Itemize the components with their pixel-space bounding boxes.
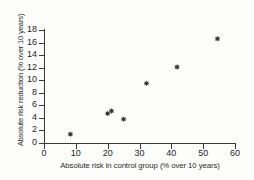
plot-area xyxy=(44,30,235,143)
data-point xyxy=(121,116,127,122)
data-point xyxy=(67,131,73,137)
data-point xyxy=(108,108,114,114)
y-tick-label: 2 xyxy=(18,124,37,134)
x-tick-label: 20 xyxy=(98,148,118,158)
scatter-plot-figure: Absolute risk reduction (% over 10 years… xyxy=(0,0,254,180)
y-tick-label: 14 xyxy=(18,49,37,59)
x-tick-label: 60 xyxy=(225,148,245,158)
data-point xyxy=(174,64,180,70)
y-tick-label: 18 xyxy=(18,24,37,34)
x-axis-title: Absolute risk in control group (% over 1… xyxy=(44,161,236,170)
data-point-marker-icon xyxy=(144,80,150,86)
data-point xyxy=(144,80,150,86)
y-tick-label: 10 xyxy=(18,74,37,84)
data-point-marker-icon xyxy=(108,108,114,114)
data-point-marker-icon xyxy=(174,64,180,70)
y-tick-label: 4 xyxy=(18,112,37,122)
y-tick-label: 0 xyxy=(18,137,37,147)
y-tick-label: 16 xyxy=(18,37,37,47)
x-tick-label: 40 xyxy=(161,148,181,158)
x-tick-label: 30 xyxy=(130,148,150,158)
y-tick-label: 8 xyxy=(18,87,37,97)
x-tick-label: 50 xyxy=(193,148,213,158)
data-point xyxy=(214,36,220,42)
y-tick-label: 6 xyxy=(18,99,37,109)
data-point-marker-icon xyxy=(214,36,220,42)
data-point-marker-icon xyxy=(67,131,73,137)
x-tick-label: 0 xyxy=(34,148,54,158)
data-point-marker-icon xyxy=(121,116,127,122)
y-tick-label: 12 xyxy=(18,62,37,72)
x-tick-label: 10 xyxy=(66,148,86,158)
